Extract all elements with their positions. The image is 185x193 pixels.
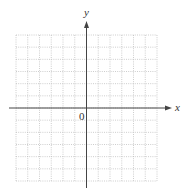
y-axis-arrow-icon [84, 21, 89, 28]
y-axis-label: y [84, 7, 89, 18]
x-axis-arrow-icon [165, 106, 172, 111]
origin-label: 0 [79, 111, 85, 122]
x-axis-label: x [175, 102, 180, 113]
grid-and-axes [0, 0, 185, 193]
